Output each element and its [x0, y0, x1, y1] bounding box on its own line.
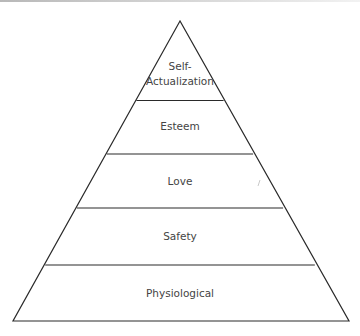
level-esteem: Esteem	[0, 119, 360, 134]
level-safety: Safety	[0, 229, 360, 244]
level-self-actualization-line1: Self-	[0, 59, 360, 74]
level-self-actualization-line2: Actualization	[0, 74, 360, 89]
level-love: Love	[0, 174, 360, 189]
level-physiological: Physiological	[0, 286, 360, 301]
level-self-actualization: Self- Actualization	[0, 59, 360, 89]
